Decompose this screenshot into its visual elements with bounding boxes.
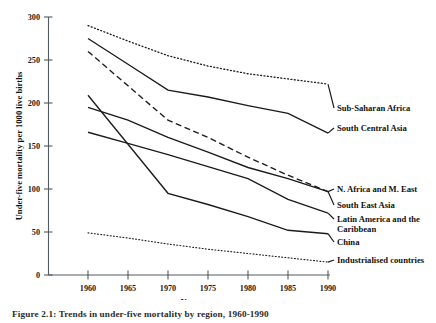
y-axis-tick-labels: 0 50 100 150 200 250 300	[28, 13, 40, 280]
x-axis-tick-labels: 1960 1965 1970 1975 1980 1985 1990	[80, 284, 336, 293]
x-tick-label: 1975	[200, 284, 216, 293]
x-tick-label: 1980	[240, 284, 256, 293]
series-leader-line	[328, 234, 334, 242]
series-label: Industrialised countries	[337, 255, 425, 265]
series-line	[88, 132, 328, 213]
series-leader-line	[328, 192, 334, 205]
y-tick-label: 250	[28, 56, 40, 65]
y-tick-label: 150	[28, 142, 40, 151]
x-tick-label: 1990	[320, 284, 336, 293]
x-tick-label: 1965	[120, 284, 136, 293]
series-line	[88, 26, 328, 84]
y-tick-label: 0	[36, 271, 40, 280]
figure-container: 0 50 100 150 200 250 300 1960 1965 1970 …	[0, 0, 436, 323]
line-chart: 0 50 100 150 200 250 300 1960 1965 1970 …	[0, 0, 436, 300]
series-leader-line	[328, 213, 334, 219]
series-label: Latin America and theCaribbean	[337, 214, 420, 234]
series-lines-group	[88, 26, 328, 263]
series-leader-line	[328, 84, 334, 108]
series-label: South East Asia	[337, 200, 395, 210]
y-axis-title: Under-five mortality per 1000 live birth…	[14, 71, 24, 220]
series-label: N. Africa and M. East	[337, 184, 417, 194]
y-tick-label: 300	[28, 13, 40, 22]
series-leader-line	[328, 189, 334, 192]
series-line	[88, 51, 328, 191]
y-tick-label: 200	[28, 99, 40, 108]
series-line	[88, 107, 328, 191]
series-leader-line	[328, 260, 334, 262]
figure-caption: Figure 2.1: Trends in under-five mortali…	[12, 309, 430, 319]
series-label: South Central Asia	[337, 123, 407, 133]
x-tick-label: 1960	[80, 284, 96, 293]
y-tick-label: 50	[32, 228, 40, 237]
series-line	[88, 233, 328, 262]
series-label: Sub-Saharan Africa	[337, 103, 411, 113]
x-axis-title: Year	[180, 297, 197, 300]
series-label: China	[337, 237, 360, 247]
series-labels-group: Sub-Saharan AfricaSouth Central AsiaN. A…	[328, 84, 425, 265]
series-leader-line	[328, 128, 334, 133]
x-tick-label: 1970	[160, 284, 176, 293]
x-tick-label: 1985	[280, 284, 296, 293]
y-tick-label: 100	[28, 185, 40, 194]
